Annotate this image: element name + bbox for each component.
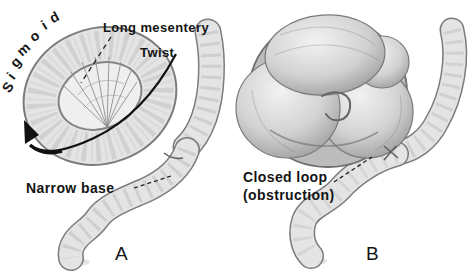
long-mesentery-label: Long mesentery xyxy=(103,20,209,36)
afferent-limb-a xyxy=(186,32,211,147)
distended-loop-mass xyxy=(236,11,413,167)
illustration-canvas xyxy=(0,0,474,274)
twist-label: Twist xyxy=(140,45,174,61)
medical-illustration: S i g m o i d Long mesentery Twist Narro… xyxy=(0,0,474,274)
closed-loop-label: Closed loop (obstruction) xyxy=(243,169,335,204)
narrow-base-label: Narrow base xyxy=(26,180,114,198)
panel-b-drawing xyxy=(236,11,455,265)
closed-loop-label-line1: Closed loop xyxy=(243,169,335,187)
closed-loop-label-line2: (obstruction) xyxy=(243,187,335,205)
panel-b-letter: B xyxy=(366,242,379,266)
panel-a-letter: A xyxy=(115,242,128,266)
panel-a-drawing xyxy=(24,28,211,266)
efferent-limb-a xyxy=(71,150,187,258)
